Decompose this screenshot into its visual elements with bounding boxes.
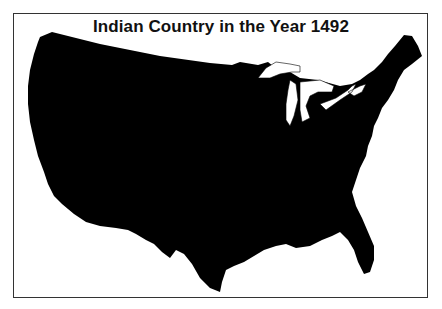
us-landmass: [28, 32, 422, 292]
us-silhouette-map: [0, 0, 442, 309]
